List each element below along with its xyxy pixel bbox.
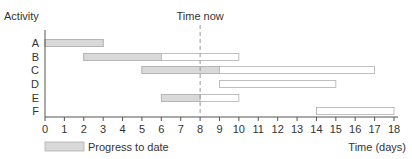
x-tick-label: 1 [61, 123, 67, 135]
planned-bar [220, 81, 336, 88]
x-tick-label: 10 [233, 123, 245, 135]
legend-swatch [45, 142, 84, 151]
x-axis-ticks: 0123456789101112131415161718 [42, 117, 400, 135]
x-tick-label: 9 [216, 123, 222, 135]
activity-labels: ABCDEF [31, 37, 40, 117]
x-tick-label: 18 [388, 123, 400, 135]
activity-label: B [32, 51, 39, 63]
activity-label: A [32, 37, 40, 49]
x-tick-label: 3 [100, 123, 106, 135]
progress-bar [45, 40, 103, 47]
x-tick-label: 15 [330, 123, 342, 135]
x-tick-label: 4 [119, 123, 125, 135]
x-axis-label: Time (days) [348, 141, 406, 153]
y-axis-label: Activity [4, 10, 39, 22]
activity-label: F [32, 105, 39, 117]
x-tick-label: 13 [291, 123, 303, 135]
x-tick-label: 11 [253, 123, 264, 135]
activity-bars [45, 40, 394, 115]
x-tick-label: 14 [310, 123, 322, 135]
time-now-label: Time now [176, 10, 223, 22]
x-tick-label: 0 [42, 123, 48, 135]
x-tick-label: 17 [368, 123, 380, 135]
planned-bar [316, 108, 394, 115]
x-tick-label: 2 [81, 123, 87, 135]
legend: Progress to date [45, 141, 169, 153]
x-tick-label: 8 [197, 123, 203, 135]
x-tick-label: 16 [349, 123, 361, 135]
activity-label: E [32, 92, 39, 104]
legend-label: Progress to date [88, 141, 169, 153]
activity-label: C [31, 64, 39, 76]
gantt-chart: Activity Time now ABCDEF 012345678910111… [0, 0, 412, 159]
progress-bar [84, 54, 162, 61]
activity-label: D [31, 78, 39, 90]
x-tick-label: 12 [272, 123, 284, 135]
x-tick-label: 6 [158, 123, 164, 135]
progress-bar [161, 95, 200, 102]
x-tick-label: 7 [178, 123, 184, 135]
x-tick-label: 5 [139, 123, 145, 135]
progress-bar [142, 67, 220, 74]
